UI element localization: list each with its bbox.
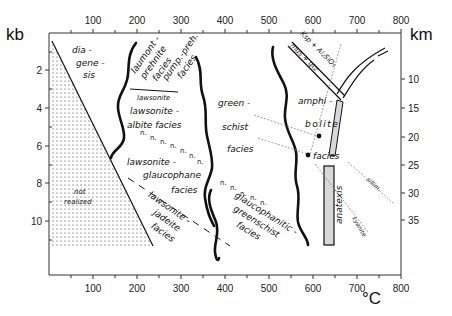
- left-tick-labels: 2 4 6 8 10: [31, 65, 43, 227]
- tick-label: 600: [305, 283, 322, 294]
- tick-label: 800: [393, 283, 410, 294]
- svg-text:sis: sis: [83, 70, 95, 80]
- lawsonite-albite-label: lawsonite - albite facies: [127, 106, 182, 130]
- tick-label: 25: [408, 160, 420, 171]
- tick-label: 300: [173, 283, 190, 294]
- svg-text:lawsonite -: lawsonite -: [130, 106, 179, 116]
- tick-label: 800: [393, 15, 410, 26]
- svg-text:schist: schist: [222, 122, 249, 132]
- svg-text:glaucophane: glaucophane: [143, 170, 202, 180]
- svg-text:n.: n.: [170, 142, 177, 150]
- top-axis-ticks: [71, 29, 401, 33]
- lawsonite-line-label: lawsonite: [137, 94, 170, 102]
- tick-label: 20: [408, 132, 420, 143]
- svg-text:n.: n.: [189, 152, 196, 160]
- anatexis-label: anatexis: [334, 185, 344, 224]
- tick-label: 500: [261, 283, 278, 294]
- svg-text:n.: n.: [150, 134, 157, 142]
- tick-label: 100: [85, 15, 102, 26]
- svg-text:not: not: [74, 188, 86, 196]
- amphibolite-label: amphi - bolite facies: [298, 96, 340, 161]
- tick-label: 30: [408, 188, 420, 199]
- right-axis-ticks: [401, 79, 405, 220]
- lawsonite-glaucophane-label: lawsonite - glaucophane facies: [127, 157, 202, 195]
- diagenesis-label: dia - gene - sis: [72, 45, 105, 80]
- svg-text:lawsonite -: lawsonite -: [127, 157, 176, 167]
- svg-text:n.: n.: [140, 129, 147, 137]
- facies-diagram: kb km °C 100 200 300 400 500 600 700 800…: [0, 0, 452, 316]
- tick-label: 700: [349, 283, 366, 294]
- depth-unit-label: km: [410, 25, 433, 44]
- zeolite-boundary-curve: [111, 43, 136, 158]
- anatexis-band: [324, 166, 334, 245]
- sillimanite-label: sillim.: [365, 176, 383, 193]
- svg-text:n.: n.: [197, 158, 204, 166]
- tick-label: 2: [36, 65, 42, 76]
- greenschist-label: green - schist facies: [218, 98, 254, 154]
- svg-text:facies: facies: [313, 151, 340, 161]
- svg-text:n.: n.: [230, 184, 237, 192]
- svg-text:amphi -: amphi -: [298, 96, 332, 106]
- svg-text:n.: n.: [220, 179, 227, 187]
- tick-label: 100: [85, 283, 102, 294]
- svg-text:facies: facies: [171, 185, 198, 195]
- bottom-axis-ticks: [71, 275, 401, 279]
- svg-text:bolite: bolite: [305, 119, 339, 129]
- tick-label: 400: [217, 283, 234, 294]
- tick-label: 500: [261, 15, 278, 26]
- pressure-unit-label: kb: [6, 25, 24, 44]
- tick-label: 300: [173, 15, 190, 26]
- svg-text:gene -: gene -: [76, 58, 105, 68]
- granite-melting-curves: [337, 48, 388, 98]
- tick-label: 700: [349, 15, 366, 26]
- tick-label: 400: [217, 15, 234, 26]
- tick-label: 10: [408, 74, 420, 85]
- right-tick-labels: 10 15 20 25 30 35: [408, 74, 420, 226]
- tick-label: 600: [305, 15, 322, 26]
- svg-text:realized: realized: [64, 198, 92, 206]
- svg-text:dia -: dia -: [72, 45, 92, 55]
- tick-label: 15: [408, 103, 420, 114]
- svg-text:facies: facies: [227, 144, 254, 154]
- kyanite-label: kyanite: [350, 215, 368, 239]
- greenschist-left-boundary-curve: [196, 57, 214, 226]
- svg-text:green -: green -: [218, 98, 250, 108]
- svg-text:albite facies: albite facies: [127, 120, 182, 130]
- svg-text:n.: n.: [180, 147, 187, 155]
- tick-label: 4: [36, 103, 42, 114]
- tick-label: 8: [36, 178, 42, 189]
- tick-label: 200: [129, 283, 146, 294]
- lawsonite-line: [130, 89, 178, 92]
- svg-text:n.: n.: [160, 138, 167, 146]
- tick-label: 6: [36, 141, 42, 152]
- bottom-tick-labels: 100 200 300 400 500 600 700 800: [85, 283, 410, 294]
- top-tick-labels: 100 200 300 400 500 600 700 800: [85, 15, 410, 26]
- tick-label: 200: [129, 15, 146, 26]
- tick-label: 35: [408, 215, 420, 226]
- tick-label: 10: [31, 216, 43, 227]
